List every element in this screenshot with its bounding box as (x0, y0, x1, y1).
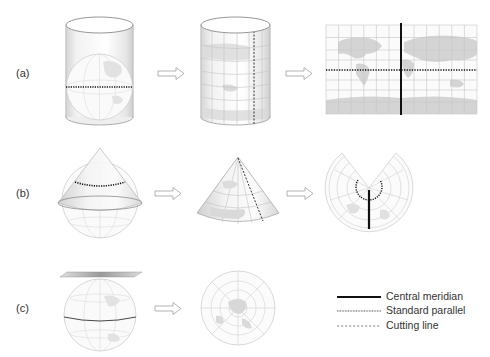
azimuthal-polar-disk (201, 271, 275, 345)
legend (337, 297, 381, 326)
globe-in-cylinder (66, 17, 133, 125)
row-label-a: (a) (16, 67, 29, 79)
row-label-b: (b) (16, 187, 29, 199)
cone (197, 157, 279, 224)
arrow-icon (286, 68, 312, 80)
unrolled-cylinder (201, 17, 270, 125)
arrow-icon (287, 188, 313, 200)
globe-with-plane (60, 272, 142, 351)
arrow-icon (155, 188, 181, 200)
row-a-cylindrical (66, 17, 478, 125)
legend-label-cutting-line: Cutting line (386, 319, 439, 331)
row-b-conic (58, 148, 413, 238)
legend-label-standard-parallel: Standard parallel (386, 304, 465, 316)
flattened-cone-fan (325, 148, 413, 232)
arrow-icon (155, 303, 181, 315)
flat-cylindrical-map (326, 23, 478, 115)
row-c-azimuthal (60, 271, 275, 351)
arrow-icon (158, 68, 184, 80)
globe-with-cone (58, 148, 142, 238)
projection-diagram: (a) (b) (c) Central meridian Standard pa… (0, 0, 490, 357)
legend-label-central-meridian: Central meridian (386, 290, 463, 302)
row-label-c: (c) (16, 302, 29, 314)
